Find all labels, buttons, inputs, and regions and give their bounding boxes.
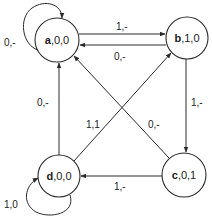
state-b: b,1,0	[166, 17, 208, 59]
edge-label-d-b: 1,1	[86, 119, 100, 130]
transition-c-d: 1,-	[81, 176, 162, 192]
edge-label-b-a: 0,-	[114, 51, 126, 62]
state-diagram: 0,- 1,- 0,- 1,- 0,- 1,- 0,- 1,1 1,0	[0, 0, 212, 221]
edge-label-c-a: 0,-	[148, 119, 160, 130]
state-c-label: c,0,1	[172, 169, 196, 181]
transition-b-c: 1,-	[186, 59, 203, 152]
transition-a-b: 1,-	[79, 21, 165, 34]
edge-label-c-d: 1,-	[114, 181, 126, 192]
state-d: d,0,0	[38, 155, 80, 197]
edge-label-d-d: 1,0	[4, 199, 18, 210]
edge-label-b-c: 1,-	[191, 97, 203, 108]
state-d-label: d,0,0	[46, 170, 71, 182]
edge-label-a-a: 0,-	[4, 37, 16, 48]
state-a: a,0,0	[35, 18, 79, 62]
state-c: c,0,1	[162, 153, 206, 197]
transition-d-a: 0,-	[37, 63, 59, 155]
state-b-label: b,1,0	[174, 32, 199, 44]
state-a-label: a,0,0	[45, 34, 69, 46]
edge-label-d-a: 0,-	[37, 97, 49, 108]
edge-label-a-b: 1,-	[116, 21, 128, 32]
transition-b-a: 0,-	[80, 45, 166, 62]
